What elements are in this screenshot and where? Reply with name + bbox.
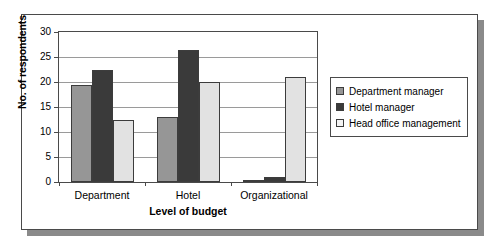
y-axis-tick-label: 15 — [25, 102, 51, 112]
x-axis-title: Level of budget — [58, 205, 318, 217]
figure-root: 051015202530 No. of respondents Departme… — [0, 0, 496, 245]
legend-item: Head office management — [336, 115, 462, 131]
plot-area — [58, 31, 318, 183]
y-axis-tick-label: 25 — [25, 52, 51, 62]
y-axis-tick-label: 10 — [25, 127, 51, 137]
bar — [285, 77, 306, 182]
bar — [199, 82, 220, 182]
legend-item-label: Hotel manager — [349, 102, 415, 113]
legend-swatch-icon — [336, 103, 344, 111]
y-axis-tick-label: 20 — [25, 77, 51, 87]
bar — [264, 177, 285, 182]
x-axis-category-label: Hotel — [145, 189, 231, 201]
legend-swatch-icon — [336, 119, 344, 127]
bar — [243, 180, 264, 183]
chart-canvas: 051015202530 No. of respondents Departme… — [0, 0, 496, 245]
x-axis-tick-mark — [59, 182, 60, 186]
y-axis-tick-label: 30 — [25, 27, 51, 37]
bar — [113, 120, 134, 183]
bar — [71, 85, 92, 183]
x-axis-tick-mark — [317, 182, 318, 186]
y-axis-tick-label: 5 — [25, 152, 51, 162]
bar — [157, 117, 178, 182]
x-axis-tick-mark — [231, 182, 232, 186]
x-axis-tick-mark — [145, 182, 146, 186]
y-axis-tick-label: 0 — [25, 177, 51, 187]
legend-item: Hotel manager — [336, 99, 462, 115]
bar — [92, 70, 113, 183]
x-axis-category-label: Department — [59, 189, 145, 201]
legend-swatch-icon — [336, 87, 344, 95]
legend-item: Department manager — [336, 83, 462, 99]
chart-legend: Department managerHotel managerHead offi… — [330, 77, 468, 137]
legend-item-label: Department manager — [349, 86, 444, 97]
bar — [178, 50, 199, 183]
legend-item-label: Head office management — [349, 118, 461, 129]
x-axis-category-label: Organizational — [231, 189, 317, 201]
y-axis-title: No. of respondents — [16, 0, 28, 132]
